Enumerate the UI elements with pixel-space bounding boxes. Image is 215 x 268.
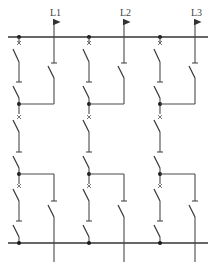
phase-label-l1: L1: [50, 7, 61, 18]
phase-3-switchgear: [154, 22, 198, 262]
phase-1-group: L1: [50, 7, 61, 18]
phase-2-switchgear: [83, 22, 127, 262]
phase-3-group: L3: [191, 7, 202, 18]
phase-label-l2: L2: [120, 7, 131, 18]
phase-1-switchgear: [13, 22, 57, 262]
switching-diagram: L1 L2 L3: [0, 0, 215, 268]
phase-label-l3: L3: [191, 7, 202, 18]
phase-2-group: L2: [120, 7, 131, 18]
